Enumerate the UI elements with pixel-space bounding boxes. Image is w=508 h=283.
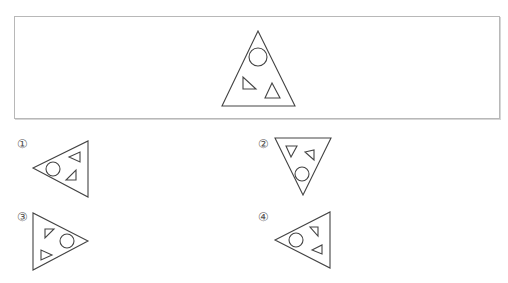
small-triangle-icon — [312, 245, 322, 254]
option-2-figure[interactable] — [275, 138, 331, 195]
option-4-figure[interactable] — [275, 212, 330, 268]
outer-triangle-icon — [222, 31, 295, 106]
circle-icon — [46, 162, 60, 176]
circle-icon — [249, 48, 267, 66]
small-triangle-icon — [305, 150, 314, 160]
small-triangle-icon — [41, 250, 52, 260]
option-3-figure[interactable] — [33, 213, 88, 270]
small-triangle-icon — [69, 152, 80, 162]
option-1-figure[interactable] — [33, 141, 88, 197]
small-triangle-icon — [265, 83, 280, 98]
small-triangle-icon — [310, 227, 318, 236]
small-triangle-icon — [45, 229, 54, 238]
circle-icon — [295, 167, 309, 181]
circle-icon — [289, 233, 303, 247]
small-triangle-icon — [66, 170, 76, 180]
figures-canvas — [0, 0, 508, 283]
outer-triangle-icon — [275, 138, 331, 195]
small-triangle-icon — [243, 77, 256, 89]
circle-icon — [60, 234, 74, 248]
question-figure — [222, 31, 295, 106]
small-triangle-icon — [286, 146, 297, 157]
